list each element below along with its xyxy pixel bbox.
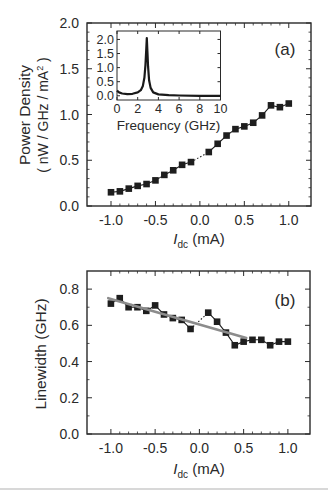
panel-a-power-density-chart: -1.0-0.50.00.51.00.00.51.01.52.0(a)Idc (… (16, 15, 311, 250)
data-marker-square (108, 189, 115, 196)
data-marker-square (250, 119, 257, 126)
data-marker-square (214, 318, 221, 325)
x-tick-label: 1.0 (279, 212, 299, 228)
y-tick-label: 0.4 (60, 354, 80, 370)
x-tick-label: 0.0 (190, 440, 210, 456)
data-marker-square (161, 172, 168, 179)
y-axis-units: ( nW / GHz / mA2 ) (35, 57, 51, 172)
linear-fit-line (108, 298, 246, 338)
x-tick-label: 10 (214, 102, 228, 116)
x-tick-label: 1.0 (278, 440, 298, 456)
data-marker-square (179, 162, 186, 169)
data-marker-square (267, 342, 274, 349)
data-marker-square (152, 177, 159, 184)
x-tick-label: 0.5 (234, 440, 254, 456)
y-tick-label: 1.0 (60, 107, 80, 123)
inset-x-axis-label: Frequency (GHz) (117, 118, 221, 133)
data-marker-square (276, 338, 283, 345)
bottom-divider (0, 488, 328, 490)
data-marker-square (117, 188, 124, 195)
data-marker-square (214, 140, 221, 147)
data-marker-square (259, 112, 266, 119)
x-tick-label: -0.5 (143, 440, 167, 456)
panel-b-linewidth-chart: -1.0-0.50.00.51.00.00.20.40.60.8(b)Idc (… (32, 271, 310, 480)
data-marker-square (249, 337, 256, 344)
figure: -1.0-0.50.00.51.00.00.51.01.52.0(a)Idc (… (0, 0, 328, 493)
panel-label-b: (b) (275, 291, 296, 310)
data-marker-square (125, 185, 132, 192)
x-tick-label: 0.0 (190, 212, 210, 228)
x-tick-label: -0.5 (143, 212, 167, 228)
data-marker-square (205, 149, 212, 156)
data-marker-square (223, 132, 230, 139)
data-marker-square (108, 300, 115, 307)
data-marker-square (285, 100, 292, 107)
data-marker-square (205, 309, 212, 316)
y-tick-label: 2.0 (60, 15, 80, 31)
data-marker-square (241, 123, 248, 130)
panel-label-a: (a) (275, 40, 296, 59)
x-axis-label: Idc (mA) (173, 230, 224, 250)
y-axis-label: Power Density (16, 65, 33, 165)
data-marker-square (152, 302, 159, 309)
y-tick-label: 0.0 (60, 198, 80, 214)
data-marker-square (232, 126, 239, 133)
data-marker-square (231, 342, 238, 349)
x-tick-label: 0 (114, 102, 121, 116)
x-axis-label: Idc (mA) (173, 460, 224, 480)
data-marker-square (187, 326, 194, 333)
data-marker-square (268, 102, 275, 109)
y-tick-label: 0.5 (60, 152, 80, 168)
y-tick-label: 2.0 (97, 33, 114, 47)
y-axis-label: Linewidth (GHz) (32, 298, 49, 409)
x-tick-label: -1.0 (99, 212, 123, 228)
y-tick-label: 0.0 (97, 89, 114, 103)
x-tick-label: 6 (176, 102, 183, 116)
data-marker-square (134, 183, 141, 190)
y-tick-label: 0.0 (60, 426, 80, 442)
inset-spectrum-chart: 02468100.00.51.01.52.0Frequency (GHz) (97, 31, 228, 133)
data-marker-square (188, 159, 195, 166)
data-marker-square (285, 338, 292, 345)
data-marker-square (240, 338, 247, 345)
x-tick-label: -1.0 (99, 440, 123, 456)
y-tick-label: 0.6 (60, 317, 80, 333)
data-marker-square (170, 167, 177, 174)
x-tick-label: 2 (134, 102, 141, 116)
x-tick-label: 8 (196, 102, 203, 116)
x-tick-label: 4 (155, 102, 162, 116)
y-tick-label: 0.5 (97, 75, 114, 89)
y-tick-label: 1.0 (97, 61, 114, 75)
data-marker-square (277, 104, 284, 111)
data-marker-square (258, 337, 265, 344)
x-tick-label: 0.5 (235, 212, 255, 228)
y-tick-label: 0.2 (60, 390, 80, 406)
y-tick-label: 1.5 (60, 61, 80, 77)
y-tick-label: 1.5 (97, 47, 114, 61)
data-marker-square (143, 181, 150, 188)
y-tick-label: 0.8 (60, 281, 80, 297)
inset-background (117, 31, 221, 100)
